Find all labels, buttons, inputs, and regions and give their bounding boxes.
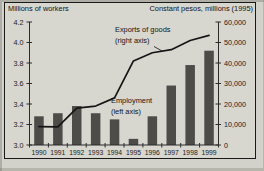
x-axis-year-label: 1993 (88, 149, 103, 156)
left-axis-tick-label: 3.6 (14, 79, 24, 88)
employment-annotation-line1: Employment (111, 96, 152, 107)
bar-1996 (148, 116, 158, 145)
x-axis-year-label: 1994 (107, 149, 122, 156)
bar-1995 (129, 139, 139, 145)
bar-1999 (204, 51, 214, 145)
right-axis-tick-label: 20,000 (224, 100, 246, 109)
left-axis-tick-label: 4.0 (14, 38, 24, 47)
left-axis-tick-label: 3.0 (14, 141, 24, 150)
exports-annotation-leader (154, 47, 163, 52)
left-axis-tick-label: 3.4 (14, 100, 24, 109)
right-axis-tick-label: 30,000 (224, 79, 246, 88)
bar-1990 (34, 116, 44, 145)
exports-annotation-line1: Exports of goods (115, 25, 170, 36)
right-axis-tick-label: 10,000 (224, 120, 246, 129)
x-axis-year-label: 1990 (31, 149, 46, 156)
x-axis-year-label: 1991 (50, 149, 65, 156)
left-axis-tick-label: 4.2 (14, 18, 24, 27)
bar-1991 (53, 113, 63, 145)
exports-annotation: Exports of goods (right axis) (115, 25, 170, 46)
left-axis-tick-label: 3.2 (14, 120, 24, 129)
exports-annotation-line2: (right axis) (115, 36, 170, 47)
x-axis-year-label: 1992 (69, 149, 84, 156)
figure-scan: Millions of workers Constant pesos, mill… (0, 0, 264, 171)
employment-annotation-line2: (left axis) (111, 107, 152, 118)
left-axis-tick-label: 3.8 (14, 59, 24, 68)
x-axis-year-label: 1998 (183, 149, 198, 156)
right-axis-tick-label: 60,000 (224, 18, 246, 27)
right-axis-tick-label: 0 (224, 141, 228, 150)
employment-annotation: Employment (left axis) (111, 96, 152, 117)
figure-frame: Millions of workers Constant pesos, mill… (4, 2, 256, 159)
bar-1998 (185, 65, 195, 145)
x-axis-year-label: 1999 (201, 149, 216, 156)
right-axis-tick-label: 50,000 (224, 38, 246, 47)
x-axis-year-label: 1996 (145, 149, 160, 156)
bar-1994 (110, 119, 120, 145)
right-axis-tick-label: 40,000 (224, 59, 246, 68)
x-axis-year-label: 1997 (164, 149, 179, 156)
x-axis-year-label: 1995 (126, 149, 141, 156)
bar-1997 (167, 86, 177, 145)
bar-1993 (91, 113, 101, 145)
